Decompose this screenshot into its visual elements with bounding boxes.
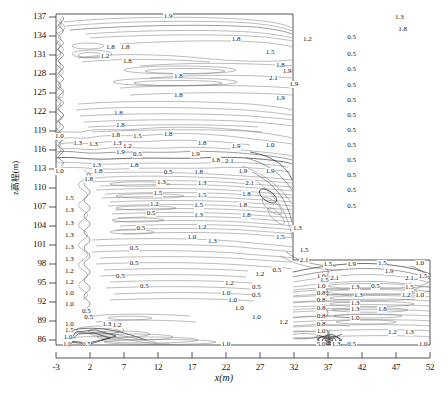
x-tick-17: 17 [178,363,206,372]
contour-label: 0.5 [252,292,262,299]
contour-label: 0.5 [347,172,357,179]
x-tick-32: 32 [280,363,308,372]
contour-label: 0.5 [84,314,94,321]
contour-label: 1.3 [394,14,404,21]
contour-label: 1.5 [194,202,204,209]
contour-label: 1.3 [112,140,122,147]
x-tick-22: 22 [212,363,240,372]
contour-label: 1.9 [282,68,292,75]
contour-label: 1.5 [418,273,428,280]
contour-label: 1.2 [197,224,207,231]
contour-label: 1.5 [65,195,75,202]
contour-label: 0.5 [139,283,149,290]
contour-label: 1.3 [194,212,204,219]
contour-label: 1.3 [331,341,341,348]
contour-label: 1.8 [105,44,115,51]
contour-label: 0.5 [82,341,92,348]
contour-label: 0.5 [347,51,357,58]
contour-label: 1.3 [292,225,302,232]
x-tick-42: 42 [348,363,376,372]
contour-label: 1.8 [111,132,121,139]
contour-label: 1.8 [116,122,126,129]
contour-label: 1.3 [350,306,360,313]
contour-label: 0.5 [133,151,143,158]
contour-label: 2.1 [330,275,340,282]
contour-label: 2.1 [405,275,415,282]
x-tick-47: 47 [382,363,410,372]
contour-label: 1.9 [163,13,173,20]
contour-label: 1.0 [265,142,275,149]
contour-label: 0.5 [347,34,357,41]
contour-label: 1.0 [418,341,428,348]
contour-label: 0.5 [252,284,262,291]
contour-label: 1.0 [221,341,231,348]
contour-label: 1.5 [153,190,163,197]
contour-label: 1.8 [231,36,241,43]
y-tick-125: 125 [10,88,46,97]
x-axis-title: x(m) [0,372,448,383]
contour-label: 1.2 [112,322,122,329]
x-tick-37: 37 [314,363,342,372]
contour-label: 0.5 [371,283,381,290]
contour-label: 1.5 [377,260,387,267]
y-tick-89: 89 [10,316,46,325]
y-tick-98: 98 [10,259,46,268]
contour-label: 1.0 [54,133,64,140]
contour-figure: 137 134 131 128 125 122 119 116 113 110 … [0,0,448,397]
contour-label: 0.5 [347,157,357,164]
contour-label: 1.0 [252,314,262,321]
contour-label: 1.2 [388,329,398,336]
contour-label: 2.1 [224,158,234,165]
contour-label: 1.0 [65,290,75,297]
y-tick-101: 101 [10,240,46,249]
contour-label: 1.9 [231,143,241,150]
y-tick-128: 128 [10,69,46,78]
contour-label: 1.5 [265,49,275,56]
y-tick-122: 122 [10,107,46,116]
y-axis-title: z高程(m) [8,148,20,208]
contour-label: 1.8 [241,212,251,219]
contour-label: 1.0 [316,328,326,335]
contour-label: 1.8 [93,168,103,175]
contour-label: 0.5 [129,245,139,252]
contour-label: 1.2 [150,201,160,208]
contour-label: 1.0 [63,341,73,348]
contour-label: 1.2 [401,292,411,299]
contour-label: 0.5 [347,66,357,73]
contour-label: 1.3 [405,329,415,336]
contour-label: 0.8 [316,305,326,312]
contour-label: 1.2 [224,280,234,287]
contour-label: 0.8 [316,313,326,320]
contour-label: 1.8 [377,306,387,313]
contour-label: 1.3 [65,232,75,239]
contour-label: 1.2 [303,36,313,43]
contour-label: 1.3 [65,220,75,227]
contour-label: 1.0 [54,168,64,175]
contour-label: 1.9 [265,168,275,175]
contour-label: 0.5 [347,112,357,119]
y-tick-134: 134 [10,31,46,40]
contour-label: 1.8 [84,176,94,183]
contour-label: 1.5 [323,261,333,268]
x-tick-neg3: -3 [42,363,70,372]
contour-label: 1.3 [102,321,112,328]
x-tick-27: 27 [246,363,274,372]
contour-label: 1.9 [289,81,299,88]
contour-label: 1.9 [190,151,200,158]
contour-label: 1.3 [156,179,166,186]
contour-label: 1.8 [241,191,251,198]
contour-label: 1.8 [211,157,221,164]
x-axis [56,352,430,358]
contour-label: 1.3 [207,238,217,245]
contour-label: 1.0 [415,292,425,299]
contour-label: 0.5 [116,273,126,280]
contour-label: 1.3 [197,180,207,187]
contour-label: 0.5 [129,260,139,267]
contour-label: 1.8 [120,44,130,51]
contour-label: 1.5 [197,192,207,199]
contour-label: 1.8 [114,110,124,117]
contour-label: 2.1 [245,180,255,187]
contour-label: 0.5 [347,187,357,194]
contour-label: 1.8 [238,202,248,209]
contour-label: 1.0 [235,305,245,312]
